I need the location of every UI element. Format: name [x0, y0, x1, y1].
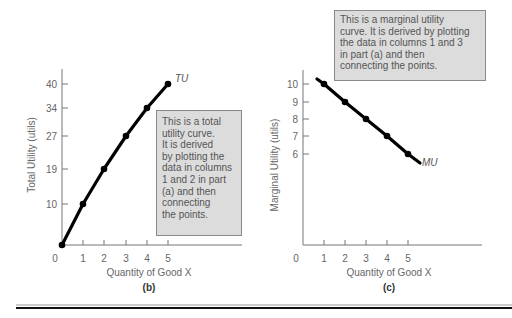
- tu-curve: [62, 84, 168, 245]
- marginal-utility-note: This is a marginal utility curve. It is …: [334, 10, 486, 81]
- panel-b-y-tick-label: 10: [46, 199, 58, 210]
- panel-c-x-ticks: [324, 240, 408, 245]
- panel-c-y-tick-label: 7: [292, 131, 298, 142]
- panel-c-y-ticks: [303, 84, 309, 154]
- panel-c-x-tick-label: 5: [405, 253, 411, 264]
- panel-c-y-tick-label: 6: [292, 149, 298, 160]
- panel-c-chart: 10 9 8 7 6 0 1 2 3 4 5 Quantity of Good …: [269, 70, 482, 293]
- panel-c-x-tick-label: 3: [363, 253, 369, 264]
- panel-c-label: (c): [383, 282, 395, 293]
- note-line: data in columns: [162, 162, 236, 174]
- note-line: connecting the points.: [340, 60, 480, 72]
- total-utility-note: This is a total utility curve. It is der…: [156, 110, 242, 236]
- panel-b-x-tick-label: 3: [123, 253, 129, 264]
- panel-b-y-tick-label: 27: [46, 131, 58, 142]
- panel-b-origin-label: 0: [52, 253, 58, 264]
- panel-b-x-tick-label: 5: [165, 253, 171, 264]
- note-line: connecting: [162, 197, 236, 209]
- note-line: It is derived: [162, 139, 236, 151]
- note-line: This is a marginal utility: [340, 14, 480, 26]
- panel-b-x-axis-title: Quantity of Good X: [106, 267, 191, 278]
- panel-b-label: (b): [143, 282, 156, 293]
- mu-curve-label: MU: [422, 157, 438, 168]
- note-line: 1 and 2 in part: [162, 174, 236, 186]
- panel-c-y-tick-label: 8: [292, 114, 298, 125]
- panel-b-y-tick-label: 40: [46, 79, 58, 90]
- panel-b-x-tick-label: 2: [101, 253, 107, 264]
- panel-b-y-ticks: [62, 84, 68, 204]
- note-line: (a) and then: [162, 186, 236, 198]
- panel-c-y-axis-title: Marginal Utility (utils): [269, 119, 280, 212]
- panel-c-y-tick-label: 9: [292, 97, 298, 108]
- panel-b-x-ticks: [83, 240, 168, 245]
- panel-c-x-tick-label: 4: [384, 253, 390, 264]
- panel-c-x-tick-label: 1: [321, 253, 327, 264]
- panel-b-x-tick-label: 4: [144, 253, 150, 264]
- note-line: curve. It is derived by plotting: [340, 26, 480, 38]
- panel-c-origin-label: 0: [293, 253, 299, 264]
- note-line: the data in columns 1 and 3: [340, 37, 480, 49]
- note-line: the points.: [162, 209, 236, 221]
- tu-data-points: [59, 81, 172, 249]
- note-line: in part (a) and then: [340, 49, 480, 61]
- panel-c-y-tick-label: 10: [287, 79, 299, 90]
- tu-curve-label: TU: [175, 73, 189, 84]
- panel-b-y-axis-title: Total Utility (utils): [26, 117, 37, 193]
- note-line: utility curve.: [162, 128, 236, 140]
- panel-c-x-axis-title: Quantity of Good X: [346, 267, 431, 278]
- panel-c-x-tick-label: 2: [342, 253, 348, 264]
- note-line: by plotting the: [162, 151, 236, 163]
- note-line: This is a total: [162, 116, 236, 128]
- panel-b-y-tick-label: 19: [46, 164, 58, 175]
- panel-b-y-tick-label: 34: [46, 103, 58, 114]
- panel-b-x-tick-label: 1: [80, 253, 86, 264]
